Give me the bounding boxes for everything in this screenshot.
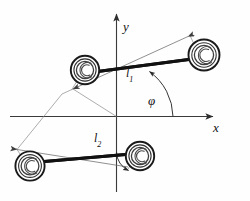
angle-label-phi: φ [148, 94, 155, 107]
length-label-l1: l1 [126, 67, 133, 82]
roller-lower-right [126, 142, 154, 170]
length-label-l2: l2 [94, 132, 101, 147]
x-axis-label: x [213, 121, 219, 134]
dim-lead-l1 [62, 89, 73, 94]
length-label-l2-subscript: 2 [97, 140, 101, 149]
roller-upper-right [189, 40, 220, 71]
roller-upper-left [71, 56, 99, 84]
bar-links-through-origin [27, 58, 200, 163]
length-label-l1-subscript: 1 [129, 75, 133, 84]
roller-lower-left [15, 151, 44, 180]
bar-link-1-segment [83, 58, 201, 74]
dim-witness-left [17, 94, 62, 150]
y-axis-label: y [123, 20, 129, 33]
figure-container: y x l1 l2 φ [0, 0, 250, 201]
dim-witness-centre [73, 89, 117, 117]
